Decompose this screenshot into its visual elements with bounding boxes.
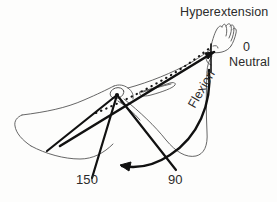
label-hyperextension: Hyperextension: [180, 6, 268, 19]
flexion-150-line: [92, 95, 117, 178]
label-150-degrees: 150: [76, 173, 98, 186]
label-90-degrees: 90: [168, 173, 183, 186]
label-neutral: Neutral: [229, 56, 270, 69]
knee-pivot-point: [115, 93, 119, 97]
flexion-90-line: [117, 95, 176, 170]
anatomy-line-drawing: [0, 0, 277, 202]
knee-rom-figure: Hyperextension 0 Neutral Flexion 150 90: [0, 0, 277, 202]
thigh-axis-line: [47, 95, 117, 151]
label-zero-degrees: 0: [243, 41, 250, 54]
malleolus-mark: [213, 46, 218, 48]
flexion-arc-arrowhead: [120, 162, 131, 171]
thigh-proximal-end: [15, 115, 31, 146]
